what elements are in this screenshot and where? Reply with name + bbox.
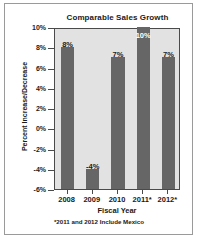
chart-footnote: *2011 and 2012 Include Mexico [14, 218, 184, 225]
bar-value-label: 7% [152, 50, 185, 59]
bar-2010[interactable] [111, 57, 124, 189]
y-axis-tick-label: 10% [14, 24, 46, 31]
y-axis-tick-label: -2% [14, 146, 46, 153]
bar-2008[interactable] [61, 47, 74, 189]
y-axis-tick-label: -6% [14, 186, 46, 193]
bar-value-label: 7% [101, 50, 134, 59]
chart-title: Comparable Sales Growth [54, 13, 181, 23]
bar-chart-figure: Comparable Sales Growth Percent Increase… [0, 0, 198, 238]
x-axis-tick [92, 190, 93, 194]
bar-slot: 8% [61, 29, 74, 189]
y-axis-tick-label: 4% [14, 85, 46, 92]
x-axis-tick [142, 190, 143, 194]
y-axis-tick [48, 190, 54, 191]
y-axis-tick-label: 2% [14, 105, 46, 112]
plot-area: 8%-4%7%10%7% [54, 28, 180, 190]
bar-value-label: 10% [127, 31, 160, 40]
bar-value-label: 8% [51, 40, 84, 49]
bar-value-label: -4% [76, 162, 109, 171]
y-axis-tick-label: 0% [14, 125, 46, 132]
bar-slot: 7% [111, 29, 124, 189]
bars-layer: 8%-4%7%10%7% [55, 29, 179, 189]
y-axis-tick-label: -4% [14, 166, 46, 173]
y-axis-tick-label: 8% [14, 44, 46, 51]
x-axis-tick [67, 190, 68, 194]
bar-slot: 10% [137, 29, 150, 189]
bar-slot: -4% [86, 29, 99, 189]
bar-2012[interactable] [162, 57, 175, 189]
x-axis-title: Fiscal Year [54, 206, 180, 215]
x-axis-tick [117, 190, 118, 194]
x-axis-tick [167, 190, 168, 194]
y-axis-tick-label: 6% [14, 65, 46, 72]
bar-2009[interactable] [86, 169, 99, 189]
bar-slot: 7% [162, 29, 175, 189]
page: Comparable Sales Growth Percent Increase… [0, 0, 198, 238]
x-axis-tick-label: 2012* [150, 195, 184, 204]
bar-2011[interactable] [137, 27, 150, 189]
